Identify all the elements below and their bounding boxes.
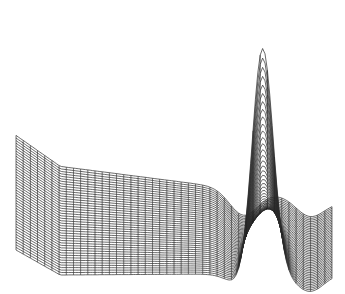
surface-plot [0,0,345,294]
wireframe-mesh [16,49,332,292]
